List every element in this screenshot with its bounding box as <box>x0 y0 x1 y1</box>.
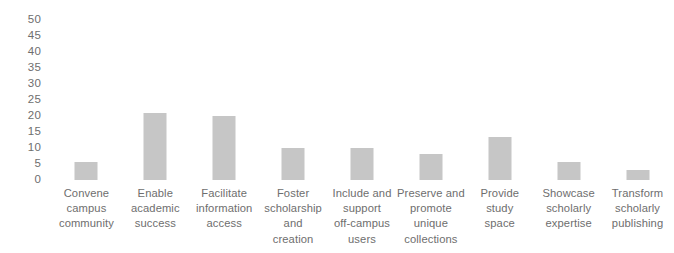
x-axis-label-line: scholarly <box>597 201 674 216</box>
y-axis: 50454035302520151050 <box>0 0 52 186</box>
y-axis-tick-label: 30 <box>1 78 41 90</box>
y-axis-tick-label: 45 <box>1 30 41 42</box>
y-axis-tick-label: 15 <box>1 126 41 138</box>
plot-area <box>52 20 672 180</box>
bar-slot <box>465 20 534 180</box>
y-axis-tick-label: 50 <box>1 14 41 26</box>
bar-chart: 50454035302520151050 Convenecampuscommun… <box>0 0 674 253</box>
bar[interactable] <box>488 137 511 180</box>
y-axis-tick-label: 25 <box>1 94 41 106</box>
x-axis-tick-label: Transformscholarlypublishing <box>597 186 674 232</box>
x-axis-label-line: publishing <box>597 216 674 231</box>
bar[interactable] <box>282 148 305 180</box>
bar[interactable] <box>75 162 98 180</box>
bar[interactable] <box>557 162 580 180</box>
y-axis-tick-label: 20 <box>1 110 41 122</box>
y-axis-tick-label: 40 <box>1 46 41 58</box>
bar[interactable] <box>419 154 442 180</box>
x-axis: ConvenecampuscommunityEnableacademicsucc… <box>52 186 672 253</box>
bar-slot <box>534 20 603 180</box>
y-axis-tick-label: 5 <box>1 158 41 170</box>
bar-slot <box>328 20 397 180</box>
bar-slot <box>603 20 672 180</box>
y-axis-tick-label: 35 <box>1 62 41 74</box>
bar-slot <box>259 20 328 180</box>
y-axis-tick-label: 0 <box>1 174 41 186</box>
x-axis-label-line: Transform <box>597 186 674 201</box>
y-axis-tick-label: 10 <box>1 142 41 154</box>
bar[interactable] <box>213 116 236 180</box>
bar-slot <box>52 20 121 180</box>
bar-slot <box>396 20 465 180</box>
bar[interactable] <box>144 113 167 180</box>
bar[interactable] <box>626 170 649 180</box>
bar-slot <box>190 20 259 180</box>
bar[interactable] <box>350 148 373 180</box>
bar-slot <box>121 20 190 180</box>
x-axis-label-line: collections <box>390 232 471 247</box>
